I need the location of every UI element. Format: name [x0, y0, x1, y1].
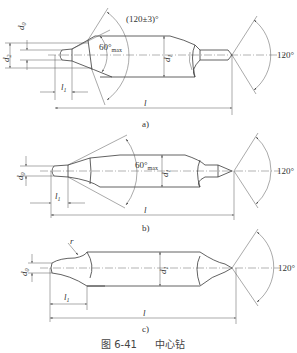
label-b-l1: l1 [55, 191, 61, 202]
view-b-drawing [20, 133, 280, 220]
label-a-chamfer-angle: (120±3)° [126, 14, 159, 24]
label-c-l1: l1 [64, 292, 70, 303]
label-b-point-angle: 120° [277, 166, 295, 176]
label-a-cone-angle: 60°max [99, 42, 122, 53]
view-c-drawing [28, 229, 280, 324]
label-a-point-angle: 120° [277, 50, 295, 60]
label-c-d1: d1 [158, 267, 169, 275]
label-c-l: l [143, 308, 146, 318]
label-b-d1: d1 [160, 170, 171, 178]
figure-number: 图 6-41 [101, 339, 137, 350]
label-c-point-angle: 120° [278, 263, 296, 273]
label-a-l1: l1 [61, 82, 67, 93]
figure-caption: 图 6-41 中心钻 [101, 336, 185, 351]
label-b-d0: d0 [15, 173, 26, 181]
center-drill-drawing: d0 d2 d1 l1 l 60°max (120±3)° 120° d0 d1… [0, 0, 297, 353]
view-a-label: a) [142, 119, 149, 129]
label-b-l: l [144, 205, 147, 215]
label-b-cone-angle: 60°max [135, 160, 158, 171]
view-c-label: c) [142, 324, 149, 334]
label-a-d1: d1 [162, 55, 173, 63]
label-a-d0: d0 [16, 23, 27, 31]
view-b-label: b) [142, 223, 150, 233]
label-c-r: r [70, 236, 74, 246]
label-a-d2: d2 [1, 55, 12, 63]
label-a-l: l [144, 98, 147, 108]
figure-title: 中心钻 [155, 339, 185, 350]
label-c-d0: d0 [19, 269, 30, 277]
